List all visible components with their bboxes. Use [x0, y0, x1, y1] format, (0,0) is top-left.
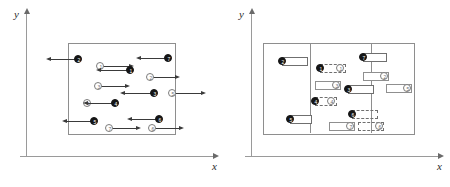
velocity-arrowhead-p-filled-5: [62, 119, 67, 123]
velocity-arrowhead-p-filled-2: [46, 57, 51, 61]
velocity-arrowhead-p-open-3: [125, 84, 130, 88]
velocity-vector-p-filled-5: [67, 121, 91, 122]
particle-label: 1: [317, 65, 325, 73]
particle-label: 3: [151, 90, 159, 98]
particle-d-filled-1: 1: [316, 64, 324, 72]
y-axis-right: [251, 14, 252, 156]
particle-d-filled-5: 5: [286, 115, 294, 123]
y-axis-arrowhead-left: [24, 8, 30, 14]
velocity-vector-p-filled-3: [125, 93, 151, 94]
particle-label: 2: [279, 58, 287, 66]
particle-label: 6: [376, 123, 384, 131]
particle-label: 5: [404, 85, 412, 93]
x-axis-label-right: x: [437, 160, 442, 172]
velocity-arrowhead-p-filled-7: [136, 56, 141, 60]
particle-p-filled-5: 5: [90, 117, 98, 125]
velocity-arrowhead-p-filled-1: [96, 68, 101, 72]
particle-label: 2: [147, 74, 155, 82]
particle-label: 4: [312, 98, 320, 106]
x-axis-right: [245, 156, 439, 157]
particle-label: 7: [106, 125, 114, 133]
velocity-vector-p-open-6: [155, 128, 179, 129]
particle-d-open-6: 6: [375, 122, 383, 130]
particle-p-filled-1: 1: [126, 66, 134, 74]
y-axis-left: [26, 14, 27, 156]
displacement-panel: y x 21172335445676: [225, 0, 450, 187]
particle-label: 3: [333, 82, 341, 90]
particle-d-open-5: 5: [403, 84, 411, 92]
particle-p-open-7: 7: [105, 124, 113, 132]
particle-label: 1: [127, 67, 135, 75]
particle-p-filled-4: 4: [111, 99, 119, 107]
y-axis-label-right: y: [239, 8, 244, 20]
particle-d-filled-3: 3: [344, 85, 352, 93]
particle-d-filled-6: 6: [348, 110, 356, 118]
displacement-tag-label: 1: [337, 65, 345, 73]
particle-label: 4: [112, 100, 120, 108]
velocity-arrowhead-p-open-6: [179, 126, 184, 130]
particle-p-open-5: 5: [168, 89, 176, 97]
displacement-tag-d-filled-1: 1: [336, 64, 344, 72]
particle-label: 3: [95, 83, 103, 91]
figure-canvas: y x 11223354475766 y x 21172335445676: [0, 0, 450, 187]
velocity-vector-p-open-1: [103, 66, 129, 67]
velocity-vector-p-filled-2: [51, 59, 75, 60]
particle-p-filled-3: 3: [150, 89, 158, 97]
velocity-arrowhead-p-open-5: [201, 91, 206, 95]
particle-label: 2: [75, 56, 83, 64]
particle-d-open-2: 2: [380, 72, 388, 80]
particle-label: 6: [349, 111, 357, 119]
velocity-vector-p-open-7: [112, 128, 136, 129]
particle-label: 7: [165, 55, 173, 63]
particle-p-filled-7: 7: [164, 54, 172, 62]
displacement-tag-label: 4: [328, 98, 336, 106]
particle-label: 5: [91, 118, 99, 126]
x-axis-label-left: x: [212, 160, 217, 172]
particle-label: 5: [287, 116, 295, 124]
x-axis-left: [20, 156, 214, 157]
velocity-vector-p-filled-4: [88, 103, 112, 104]
velocity-vector-p-open-2: [153, 77, 175, 78]
displacement-tag-d-filled-4: 4: [327, 97, 335, 105]
particle-label: 6: [156, 116, 164, 124]
velocity-arrowhead-p-filled-4: [83, 101, 88, 105]
particle-p-filled-6: 6: [155, 115, 163, 123]
particle-d-filled-4: 4: [311, 97, 319, 105]
particle-label: 7: [360, 54, 368, 62]
particle-label: 3: [345, 86, 353, 94]
velocity-vector-p-filled-7: [141, 58, 165, 59]
particle-d-open-3: 3: [332, 81, 340, 89]
particle-p-open-2: 2: [146, 73, 154, 81]
velocity-vector-p-filled-6: [132, 119, 156, 120]
particle-label: 2: [381, 73, 389, 81]
particle-label: 5: [169, 90, 177, 98]
particle-p-filled-2: 2: [74, 55, 82, 63]
particle-p-open-3: 3: [94, 82, 102, 90]
velocity-arrowhead-p-filled-3: [120, 91, 125, 95]
velocity-panel: y x 11223354475766: [0, 0, 225, 187]
particle-p-open-6: 6: [148, 124, 156, 132]
x-axis-arrowhead-right: [438, 153, 444, 159]
velocity-vector-p-open-5: [175, 93, 201, 94]
velocity-vector-p-open-3: [101, 86, 125, 87]
particle-d-filled-7: 7: [359, 53, 367, 61]
velocity-vector-p-filled-1: [101, 70, 127, 71]
x-axis-arrowhead-left: [213, 153, 219, 159]
particle-label: 7: [347, 123, 355, 131]
y-axis-label-left: y: [14, 8, 19, 20]
particle-d-open-7: 7: [346, 122, 354, 130]
velocity-arrowhead-p-open-7: [136, 126, 141, 130]
particle-label: 6: [149, 125, 157, 133]
particle-d-filled-2: 2: [278, 57, 286, 65]
y-axis-arrowhead-right: [249, 8, 255, 14]
velocity-arrowhead-p-filled-6: [127, 117, 132, 121]
velocity-arrowhead-p-open-2: [175, 75, 180, 79]
